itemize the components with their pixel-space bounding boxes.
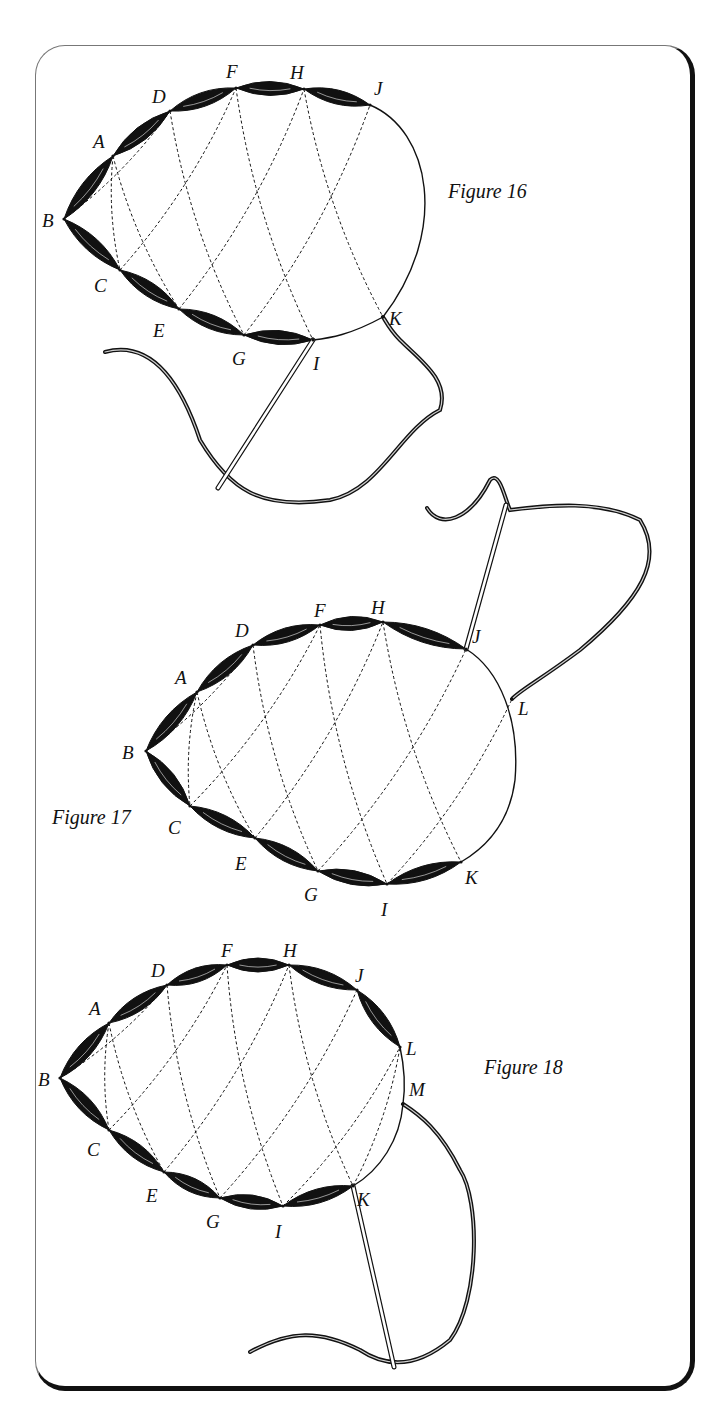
point-label-g: G [304, 884, 318, 905]
point-label-k: K [464, 867, 479, 888]
point-label-c: C [168, 817, 181, 838]
dashed-guide-line [167, 985, 220, 1198]
dashed-guide-line [170, 111, 244, 335]
thread [105, 317, 442, 503]
dashed-guide-line [320, 625, 387, 884]
stitch-bundle [318, 869, 387, 886]
dashed-guide-line [289, 965, 353, 1186]
dashed-guide-line [164, 965, 289, 1172]
figure-18-label: Figure 18 [484, 1056, 563, 1079]
stitch-bundle [60, 1078, 109, 1130]
stitch-bundle [283, 1186, 353, 1207]
stitch-bundle [146, 751, 190, 806]
dashed-guide-line [188, 692, 197, 806]
stitch-bundle [64, 156, 113, 219]
point-label-a: A [87, 998, 101, 1019]
point-label-j: J [472, 626, 482, 647]
figure-16-label: Figure 16 [448, 180, 527, 203]
dashed-guide-line [253, 645, 318, 871]
point-label-b: B [122, 742, 134, 763]
point-label-g: G [232, 348, 246, 369]
fig17-diagram: ABCDEFGHIJKL [122, 478, 650, 920]
stitch-bundle [190, 806, 255, 838]
figure-17-label: Figure 17 [52, 806, 131, 829]
point-label-b: B [42, 210, 54, 231]
point-label-e: E [145, 1185, 158, 1206]
point-label-m: M [408, 1079, 426, 1100]
dashed-guide-line [190, 625, 320, 806]
point-label-i: I [380, 899, 389, 920]
point-label-j: J [355, 965, 365, 986]
stitch-bundle [244, 330, 313, 344]
clipped-caption-text [0, 1412, 708, 1423]
dashed-guide-line [255, 622, 383, 838]
dashed-guide-line [109, 965, 227, 1130]
stitch-bundle [383, 622, 466, 649]
point-label-i: I [312, 353, 321, 374]
stitch-bundle [64, 219, 120, 270]
stitch-bundle [60, 1023, 109, 1078]
stitch-bundle [109, 985, 167, 1023]
point-label-b: B [38, 1069, 50, 1090]
stitch-bundle [253, 625, 320, 646]
point-label-i: I [274, 1221, 283, 1242]
stitch-bundle [227, 958, 289, 972]
point-label-d: D [151, 86, 166, 107]
shape-outline [353, 1047, 404, 1186]
stitch-bundle [120, 270, 179, 309]
point-label-k: K [356, 1189, 371, 1210]
dashed-guide-line [304, 89, 383, 317]
stitch-bundle [113, 111, 170, 156]
stitch-bundle [357, 990, 400, 1047]
point-label-h: H [289, 62, 305, 83]
point-label-a: A [91, 131, 105, 152]
point-label-k: K [388, 308, 403, 329]
point-label-c: C [87, 1139, 100, 1160]
point-label-l: L [405, 1038, 417, 1059]
shape-outline [461, 649, 516, 862]
stitch-bundle [164, 1172, 220, 1198]
stitch-bundle [289, 965, 357, 990]
point-label-f: F [313, 600, 326, 621]
dashed-guide-line [318, 649, 466, 871]
dashed-guide-line [111, 156, 120, 270]
stitch-bundle [255, 838, 318, 871]
point-label-f: F [220, 940, 233, 961]
dashed-guide-line [383, 622, 461, 862]
point-label-d: D [150, 960, 165, 981]
dashed-guide-line [387, 699, 512, 884]
point-label-g: G [206, 1211, 220, 1232]
dashed-guide-line [353, 1047, 400, 1186]
dashed-guide-line [220, 990, 357, 1198]
point-label-c: C [94, 275, 107, 296]
stitch-bundle [387, 862, 461, 884]
point-label-d: D [234, 620, 249, 641]
stitch-diagrams: ABCDEFGHIJKABCDEFGHIJKLABCDEFGHIJKLM [0, 0, 708, 1423]
point-label-f: F [225, 61, 238, 82]
stitch-bundle [236, 81, 304, 95]
stitch-bundle [170, 88, 236, 111]
point-label-e: E [234, 853, 247, 874]
fig18-diagram: ABCDEFGHIJKLM [38, 940, 474, 1367]
dashed-guide-line [236, 88, 313, 340]
stitch-bundle [109, 1130, 164, 1172]
stitch-bundle [179, 309, 244, 335]
point-label-h: H [370, 597, 386, 618]
fig16-diagram: ABCDEFGHIJK [42, 61, 442, 503]
dashed-guide-line [105, 1023, 109, 1130]
stitch-bundle [304, 88, 370, 106]
shape-outline [313, 105, 425, 340]
dashed-guide-line [120, 88, 236, 270]
point-label-j: J [374, 78, 384, 99]
point-label-e: E [152, 320, 165, 341]
stitch-bundle [320, 616, 383, 630]
dashed-guide-line [227, 965, 283, 1206]
point-label-l: L [517, 698, 529, 719]
point-label-a: A [173, 667, 187, 688]
dashed-guide-line [244, 105, 370, 335]
stitch-bundle [220, 1194, 283, 1209]
dashed-guide-line [283, 1047, 400, 1206]
point-label-h: H [282, 940, 298, 961]
stitch-bundle [197, 645, 253, 692]
